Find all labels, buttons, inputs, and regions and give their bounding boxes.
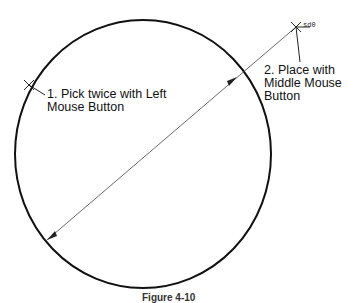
annotation-pick: 1. Pick twice with Left Mouse Button xyxy=(47,88,167,114)
diameter-dimension-line xyxy=(47,27,296,240)
dimension-text: sd0 xyxy=(303,21,316,29)
arrow-head-upper xyxy=(227,77,237,86)
circle xyxy=(15,20,271,288)
annotation-place: 2. Place with Middle Mouse Button xyxy=(264,64,342,103)
arrow-head-lower xyxy=(47,231,57,240)
figure-caption: Figure 4-10 xyxy=(142,292,195,303)
